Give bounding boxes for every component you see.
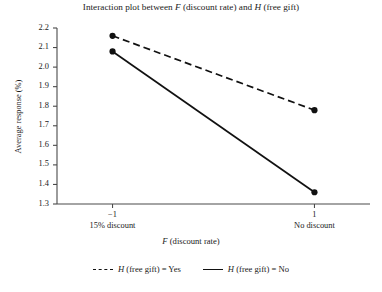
y-axis-tick-label: 1.4 [19,180,49,188]
y-axis-tick-label: 2.1 [19,43,49,51]
legend-item-yes: H (free gift) = Yes [93,264,181,274]
x-axis-tick-sublabel: 15% discount [43,222,183,230]
x-axis-ticks [113,204,315,208]
legend-item-no: H (free gift) = No [203,264,289,274]
legend-solid-line-icon [203,269,223,270]
x-axis-tick-label: 1 [254,211,374,219]
y-axis-ticks [53,28,57,204]
y-axis-tick-label: 1.8 [19,102,49,110]
data-point [109,48,115,54]
x-axis-tick-sublabel: No discount [244,222,382,230]
data-point [109,33,115,39]
series-lines [113,36,315,192]
x-axis-tick-label: −1 [53,211,173,219]
y-axis-tick-label: 2.2 [19,24,49,32]
data-point [311,107,317,113]
legend-label-yes: H (free gift) = Yes [118,264,181,274]
legend-label-yes-rest: (free gift) = Yes [124,264,181,274]
chart-legend: H (free gift) = Yes H (free gift) = No [0,264,382,274]
y-axis-tick-label: 2.0 [19,63,49,71]
series-points [109,33,317,196]
plot-area [0,0,382,292]
legend-label-no: H (free gift) = No [228,264,289,274]
y-axis-tick-label: 1.5 [19,160,49,168]
x-axis-label-rest: (discount rate) [168,236,220,246]
y-axis-tick-label: 1.6 [19,141,49,149]
y-axis-tick-label: 1.7 [19,121,49,129]
data-point [311,189,317,195]
legend-label-no-rest: (free gift) = No [234,264,289,274]
y-axis-tick-label: 1.3 [19,200,49,208]
x-axis-label: F (discount rate) [0,236,382,246]
y-axis-tick-label: 1.9 [19,82,49,90]
interaction-plot-figure: Interaction plot between F (discount rat… [0,0,382,292]
series-line-no [113,51,315,192]
legend-dashed-line-icon [93,269,113,270]
